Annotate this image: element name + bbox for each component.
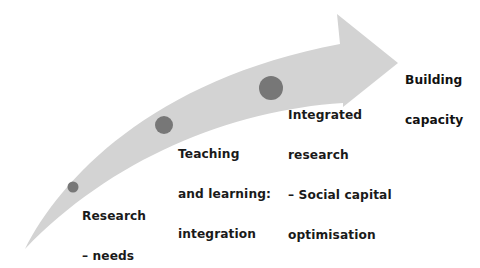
- label-line: Building: [405, 74, 463, 87]
- node-research: [68, 182, 79, 193]
- stage-research-label: Research – needs indentification: [82, 183, 184, 268]
- label-line: Research: [82, 210, 184, 223]
- label-line: – needs: [82, 250, 184, 263]
- outcome-label: Building capacity: [405, 47, 463, 141]
- label-line: – Social capital: [288, 189, 392, 202]
- label-line: research: [288, 149, 392, 162]
- label-line: and learning:: [178, 188, 271, 201]
- label-line: optimisation: [288, 229, 392, 242]
- label-line: Teaching: [178, 148, 271, 161]
- node-integrated: [259, 76, 283, 100]
- stage-teaching-label: Teaching and learning: integration of st…: [178, 121, 271, 268]
- stage-integrated-label: Integrated research – Social capital opt…: [288, 82, 392, 256]
- label-line: integration: [178, 228, 271, 241]
- label-line: capacity: [405, 114, 463, 127]
- label-line: Integrated: [288, 109, 392, 122]
- node-teaching: [155, 116, 173, 134]
